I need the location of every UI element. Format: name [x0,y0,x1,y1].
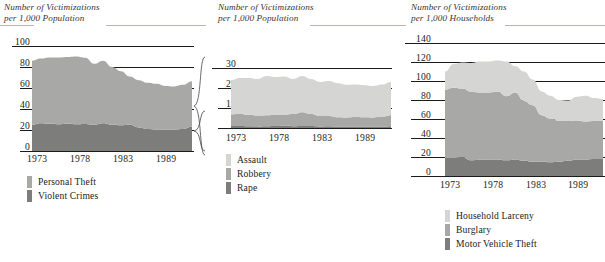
legend-label: Robbery [237,168,271,179]
chart-title-line2: per 1,000 Population [218,13,298,24]
xtick-label: 1973 [226,132,246,143]
legend-label: Personal Theft [38,176,96,187]
xtick-label: 1989 [156,153,176,164]
chart-panel-personal-crimes: Number of Victimizations per 1,000 Popul… [0,0,205,262]
chart-panel-household-crimes: Number of Victimizations per 1,000 House… [401,0,605,262]
gridline [20,151,194,152]
chart-panel-violent-crime-detail: Number of Victimizations per 1,000 Popul… [205,0,401,262]
title-rule [0,25,34,26]
chart-title-line1: Number of Victimizations [4,2,100,13]
legend-label: Burglary [456,224,491,235]
chart-title-line2: per 1,000 Population [4,13,84,24]
legend-item: Assault [226,153,271,166]
xtick-label: 1989 [355,132,375,143]
legend-label: Rape [237,182,257,193]
legend-item: Robbery [226,167,271,180]
plot-area-violent-crime-detail [231,68,391,128]
legend-household-crimes: Household Larceny Burglary Motor Vehicle… [445,209,537,251]
legend-swatch-icon [445,210,450,222]
title-rule [505,25,605,26]
legend-swatch-icon [226,154,231,166]
legend-swatch-icon [445,224,450,236]
legend-swatch-icon [226,182,231,194]
legend-label: Assault [237,154,267,165]
xtick-label: 1983 [312,132,332,143]
legend-label: Violent Crimes [38,190,98,201]
legend-item: Personal Theft [27,175,98,188]
legend-violent-crime-detail: Assault Robbery Rape [226,153,271,195]
plot-area-household-crimes [445,43,603,176]
chart-title-line2: per 1,000 Households [411,13,494,24]
xtick-label: 1973 [27,153,47,164]
connector-brace-mid [193,110,206,152]
title-rule [106,25,206,26]
legend-personal-crimes: Personal Theft Violent Crimes [27,175,98,203]
legend-swatch-icon [27,176,32,188]
legend-item: Motor Vehicle Theft [445,237,537,250]
legend-swatch-icon [27,190,32,202]
legend-swatch-icon [445,238,450,250]
area-series [32,57,192,130]
xtick-label: 1989 [568,179,588,190]
xtick-label: 1978 [483,179,503,190]
legend-item: Burglary [445,223,537,236]
xtick-label: 1978 [269,132,289,143]
area-series [231,76,391,117]
gridline [218,128,392,129]
gridline [411,176,605,177]
xtick-label: 1978 [70,153,90,164]
legend-item: Violent Crimes [27,189,98,202]
xtick-label: 1973 [440,179,460,190]
chart-title-line1: Number of Victimizations [218,2,314,13]
title-rule [310,25,406,26]
legend-item: Rape [226,181,271,194]
legend-label: Motor Vehicle Theft [456,238,537,249]
chart-title-line1: Number of Victimizations [411,2,507,13]
legend-swatch-icon [226,168,231,180]
plot-area-personal-crimes [32,46,192,151]
legend-item: Household Larceny [445,209,537,222]
legend-label: Household Larceny [456,210,534,221]
xtick-label: 1983 [526,179,546,190]
xtick-label: 1983 [113,153,133,164]
